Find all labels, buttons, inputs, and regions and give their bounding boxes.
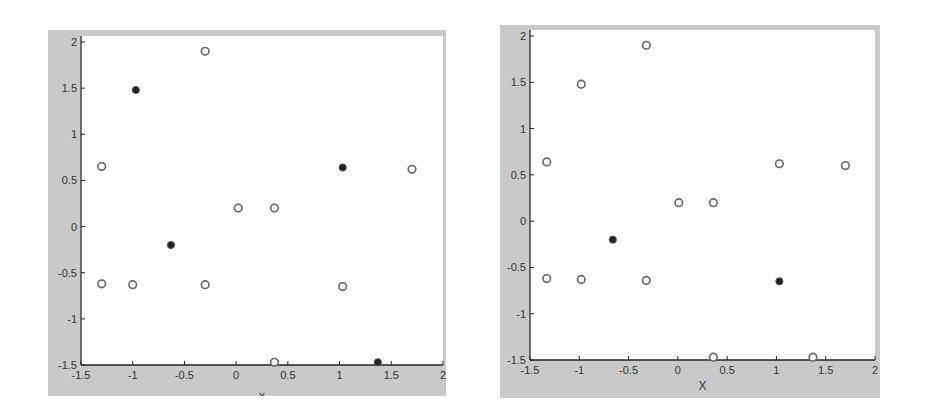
open-point-marker [201, 47, 209, 55]
open-point-marker [809, 353, 817, 361]
open-point-marker [201, 281, 209, 289]
x-tick-label: 2 [440, 369, 446, 381]
open-point-marker [271, 204, 279, 212]
open-point-marker [577, 276, 585, 284]
x-tick-label: 0 [675, 364, 681, 376]
filled-point-marker [167, 241, 174, 248]
x-tick-label: 0 [233, 369, 239, 381]
open-point-marker [577, 80, 585, 88]
right-chart: -1.5-1-0.500.511.5221.510.50-0.5-1-1.5X [507, 30, 878, 393]
clip-mask [48, 396, 446, 408]
open-point-marker [675, 199, 683, 207]
y-tick-label: 2 [520, 30, 526, 42]
plot-area [81, 36, 443, 365]
open-point-marker [543, 158, 551, 166]
y-tick-label: -0.5 [58, 267, 77, 279]
x-tick-label: 1 [773, 364, 779, 376]
open-point-marker [643, 277, 651, 285]
open-point-marker [271, 358, 279, 366]
open-point-marker [543, 275, 551, 283]
open-point-marker [710, 353, 718, 361]
y-tick-label: -1 [67, 313, 77, 325]
x-tick-label: -0.5 [175, 369, 194, 381]
filled-point-marker [132, 86, 139, 93]
x-tick-label: -1 [128, 369, 138, 381]
y-tick-label: 0.5 [62, 174, 77, 186]
open-point-marker [710, 199, 718, 207]
y-tick-label: -1 [516, 308, 526, 320]
open-point-marker [234, 204, 242, 212]
filled-point-marker [339, 164, 346, 171]
open-point-marker [842, 162, 850, 170]
y-tick-label: 1 [71, 128, 77, 140]
open-point-marker [129, 281, 137, 289]
open-point-marker [643, 41, 651, 49]
open-point-marker [98, 280, 106, 288]
x-tick-label: 0.5 [719, 364, 734, 376]
left-chart: -1.5-1-0.500.511.5221.510.50-0.5-1-1.5x [48, 36, 446, 408]
filled-point-marker [609, 236, 616, 243]
x-tick-label: -1 [574, 364, 584, 376]
open-point-marker [98, 163, 106, 171]
x-tick-label: 2 [872, 364, 878, 376]
filled-point-marker [776, 278, 783, 285]
y-tick-label: 0 [71, 221, 77, 233]
x-tick-label: 1 [337, 369, 343, 381]
x-tick-label: 0.5 [280, 369, 295, 381]
y-tick-label: 0 [520, 215, 526, 227]
y-tick-label: 0.5 [511, 169, 526, 181]
x-tick-label: 1.5 [818, 364, 833, 376]
y-tick-label: -1.5 [507, 354, 526, 366]
open-point-marker [776, 160, 784, 168]
x-axis-label: X [698, 379, 706, 393]
filled-point-marker [374, 359, 381, 366]
y-tick-label: -1.5 [58, 359, 77, 371]
open-point-marker [408, 166, 416, 174]
x-tick-label: -0.5 [619, 364, 638, 376]
y-tick-label: -0.5 [507, 261, 526, 273]
y-tick-label: 2 [71, 36, 77, 48]
open-point-marker [339, 283, 347, 291]
y-tick-label: 1.5 [62, 82, 77, 94]
scatter-plots: -1.5-1-0.500.511.5221.510.50-0.5-1-1.5x-… [0, 0, 927, 417]
y-tick-label: 1.5 [511, 76, 526, 88]
y-tick-label: 1 [520, 123, 526, 135]
x-tick-label: 1.5 [384, 369, 399, 381]
plot-area [530, 30, 875, 360]
